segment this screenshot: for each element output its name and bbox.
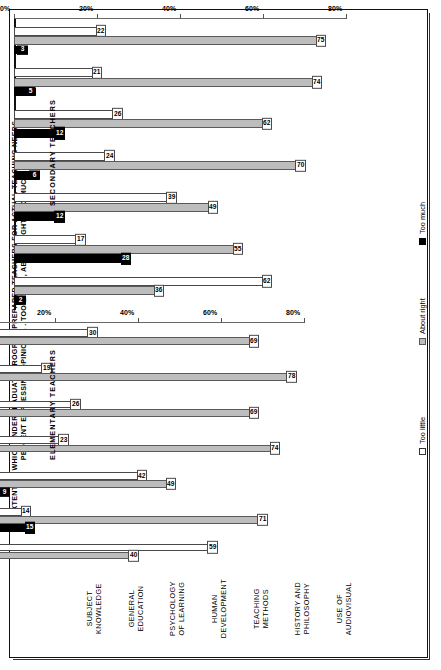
panel-secondary-teachers: 0%20%40%60%80%22753217452662122470639491… [14,18,354,310]
bar-right [0,552,138,560]
bar-value-label: 62 [262,275,273,287]
bar-right [0,480,175,488]
bar-group: 394912 [14,193,346,221]
bar-value-label: 40 [129,549,140,561]
axis-tick [263,14,264,19]
bar-right [0,409,258,417]
bar-little [0,472,146,480]
bar-value-label: 75 [316,34,327,46]
bar-little [14,235,85,244]
bar-value-label: 62 [262,118,273,130]
bar-group: 62362 [14,277,346,305]
bar-group: 175528 [14,235,346,263]
bar-group: 30691 [0,329,304,353]
legend-item-much[interactable]: Too much [418,202,427,245]
bar-little [14,152,114,161]
bar-little [14,68,101,77]
bar-value-label: 3 [17,46,28,55]
legend-swatch-right-icon [419,338,426,345]
bar-value-label: 55 [233,243,244,255]
bar-value-label: 12 [54,211,65,223]
bar-group: 26695 [0,401,304,425]
legend-item-right[interactable]: About right [418,298,427,345]
bar-group: 147115 [0,508,304,532]
bar-right [14,203,217,212]
bar-value-label: 69 [249,407,260,419]
bar-right [0,516,267,524]
bar-right [14,161,305,170]
bar-value-label: 49 [208,201,219,213]
axis-tick [304,318,305,323]
legend-label: About right [418,298,427,334]
panel-label-elementary: ELEMENTARY TEACHERS [48,349,57,460]
legend-label: Too little [418,417,427,444]
bar-value-label: 59 [207,541,218,553]
bar-value-label: 74 [270,442,281,454]
bar-value-label: 28 [121,252,132,264]
chart-page: EXTENT TO WHICH UNDERGRADUATE PROGRAM PR… [0,0,441,670]
bar-little [14,27,105,36]
value-axis [0,322,304,323]
bar-right [0,337,258,345]
bar-value-label: 2 [15,296,26,305]
legend-label: Too much [418,202,427,234]
bar-little [14,110,122,119]
plot-area: 0%20%40%60%80%22753217452662122470639491… [14,18,346,310]
panel-label-secondary: SECONDARY TEACHERS [48,99,57,206]
bar-little [0,544,217,552]
bar-value-label: 9 [0,488,10,497]
bar-little [0,401,80,409]
bar-group: 266212 [14,110,346,138]
axis-tick [221,318,222,323]
bar-little [14,277,271,286]
bar-group: 24706 [14,152,346,180]
legend-item-little[interactable]: Too little [418,417,427,455]
axis-tick [14,14,15,19]
bar-right [14,78,321,87]
bar-value-label: 6 [29,171,40,180]
bar-value-label: 70 [295,159,306,171]
bar-value-label: 49 [166,478,177,490]
bar-much [14,254,130,263]
bar-right [14,286,163,295]
legend-swatch-little-icon [419,448,426,455]
bar-group: 42499 [0,472,304,496]
bar-value-label: 5 [25,87,36,96]
bar-group: 19783 [0,365,304,389]
bar-right [0,373,296,381]
bar-right [14,36,325,45]
bar-value-label: 71 [257,514,268,526]
bar-little [0,329,97,337]
bar-value-label: 69 [249,335,260,347]
axis-tick [180,14,181,19]
axis-tick [55,318,56,323]
axis-tick [97,14,98,19]
axis-tick [138,318,139,323]
bar-value-label: 74 [312,76,323,88]
bar-group: 23743 [0,436,304,460]
axis-tick [346,14,347,19]
bar-value-label: 15 [25,522,36,534]
bar-group: 21745 [14,68,346,96]
bar-group: 59401 [0,544,304,568]
plot-area: 0%20%40%60%80%30691197832669523743424991… [0,322,304,572]
legend-swatch-much-icon [419,238,426,245]
bar-right [0,445,279,453]
bar-little [14,193,176,202]
bar-value-label: 78 [286,371,297,383]
bar-group: 22753 [14,27,346,55]
bar-value-label: 36 [154,285,165,297]
